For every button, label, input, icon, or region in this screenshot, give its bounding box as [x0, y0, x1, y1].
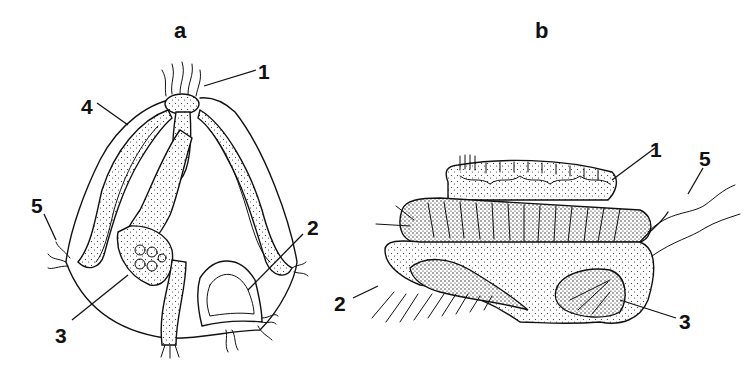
leader-a-2 [248, 234, 303, 290]
leader-a-4 [97, 103, 128, 125]
leader-a-1 [204, 70, 256, 86]
figure-illustration [0, 0, 744, 367]
leader-b-5 [688, 168, 703, 194]
callout-b-1: 1 [650, 139, 662, 160]
callout-b-2: 2 [334, 293, 346, 314]
callout-a-1: 1 [258, 61, 270, 82]
callout-b-5: 5 [699, 148, 711, 169]
callout-b-3: 3 [679, 311, 691, 332]
callout-a-3: 3 [55, 325, 67, 346]
leader-b-2 [353, 286, 378, 298]
callout-a-4: 4 [81, 96, 93, 117]
leader-a-3 [72, 275, 128, 320]
leader-b-1 [612, 148, 655, 180]
panel-b-drawing [372, 155, 740, 323]
callout-a-2: 2 [307, 217, 319, 238]
callout-a-5: 5 [31, 195, 43, 216]
leader-a-5 [44, 214, 56, 240]
